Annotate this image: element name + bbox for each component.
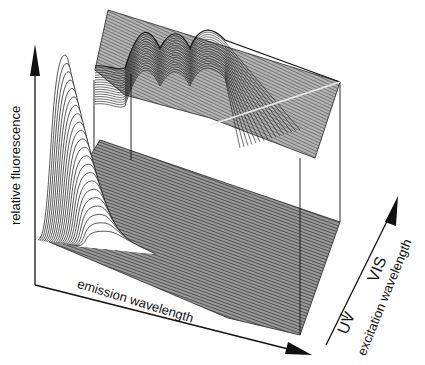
y-axis-label: relative fluorescence xyxy=(8,106,23,225)
y-axis-arrow-icon xyxy=(30,44,40,76)
z-axis-arrow-icon xyxy=(385,196,398,226)
surface-plot xyxy=(0,0,425,365)
x-axis-arrow-icon xyxy=(285,342,312,355)
y-axis xyxy=(30,44,40,285)
back-surface xyxy=(95,10,340,158)
